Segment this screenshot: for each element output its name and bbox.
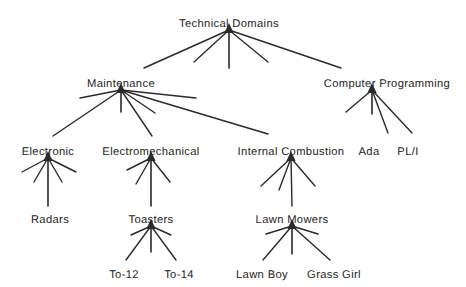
node-label-to-12: To-12 [109, 269, 139, 282]
edge-technical-domains-to-computer-programming [229, 30, 341, 68]
edge-maintenance-to-internal-combustion [121, 90, 268, 134]
node-label-radars: Radars [31, 214, 69, 227]
node-label-maintenance: Maintenance [87, 78, 155, 91]
node-label-electromechanical: Electromechanical [102, 146, 199, 159]
node-label-lawn-mowers: Lawn Mowers [256, 214, 329, 227]
node-label-pl-i: PL/I [397, 146, 418, 159]
node-label-computer-programming: Computer Programming [324, 78, 450, 91]
edge-internal-combustion-to-lawn-mowers [291, 158, 292, 206]
node-label-toasters: Toasters [128, 214, 173, 227]
node-label-technical-domains: Technical Domains [179, 18, 279, 31]
node-label-lawn-boy: Lawn Boy [236, 269, 288, 282]
edge-layer [0, 0, 466, 287]
edge-technical-domains-to-unlabeled-1 [194, 30, 229, 62]
node-label-to-14: To-14 [164, 269, 194, 282]
edge-computer-programming-to-ada [372, 90, 388, 133]
technical-domains-tree-diagram: Technical DomainsMaintenanceComputer Pro… [0, 0, 466, 287]
node-label-grass-girl: Grass Girl [307, 269, 361, 282]
node-label-electronic: Electronic [22, 146, 75, 159]
edge-maintenance-to-electromechanical [121, 90, 152, 136]
edge-internal-combustion-to-unlabeled-28 [291, 158, 315, 186]
edge-computer-programming-to-pl-i [372, 90, 412, 133]
edge-internal-combustion-to-unlabeled-25 [261, 158, 291, 186]
edge-electromechanical-to-unlabeled-24 [151, 158, 170, 182]
edge-lawn-mowers-to-grass-girl [292, 226, 330, 260]
node-label-internal-combustion: Internal Combustion [238, 146, 345, 159]
edge-technical-domains-to-maintenance [144, 30, 229, 68]
edge-computer-programming-to-unlabeled-12 [346, 90, 372, 112]
node-label-ada: Ada [359, 146, 380, 159]
edge-technical-domains-to-unlabeled-3 [229, 30, 268, 62]
